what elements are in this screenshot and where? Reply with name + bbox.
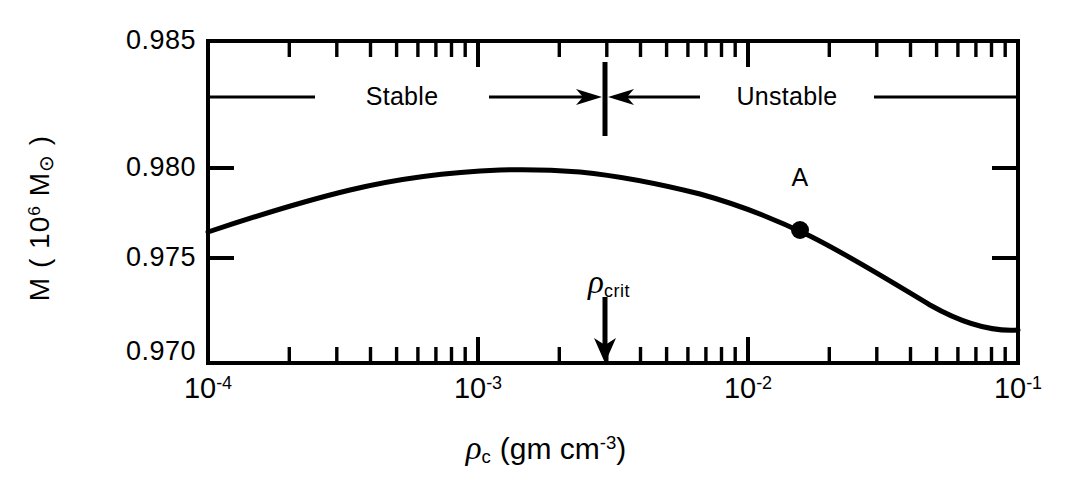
x-tick-exponent: -3 xyxy=(486,373,502,393)
x-tick-label-1e-2: 10-2 xyxy=(688,374,808,403)
stable-region-label: Stable xyxy=(315,84,489,109)
y-axis-title-close: ) xyxy=(24,135,55,154)
mass-curve xyxy=(208,170,1018,331)
y-axis-title: M ( 106 M⊙ ) xyxy=(24,78,64,358)
sun-symbol-icon: ⊙ xyxy=(35,154,57,172)
x-tick-label-1e-1: 10-1 xyxy=(958,374,1078,403)
x-axis-ticks-top xyxy=(289,41,1005,67)
rho-crit-label: ρcrit xyxy=(544,266,674,300)
x-axis-title-sub: c xyxy=(482,446,492,467)
rho-crit-arrow xyxy=(594,297,616,363)
x-axis-title-mid: (gm cm xyxy=(491,432,599,465)
x-tick-exponent: -1 xyxy=(1026,373,1042,393)
y-tick-label-0985: 0.985 xyxy=(76,27,196,54)
y-axis-title-exponent: 6 xyxy=(24,205,44,216)
unstable-region-label: Unstable xyxy=(700,84,874,109)
x-tick-exponent: -4 xyxy=(216,373,232,393)
x-tick-mantissa: 10 xyxy=(454,372,486,404)
x-tick-label-1e-3: 10-3 xyxy=(418,374,538,403)
x-tick-mantissa: 10 xyxy=(994,372,1026,404)
x-tick-mantissa: 10 xyxy=(184,372,216,404)
x-tick-mantissa: 10 xyxy=(724,372,756,404)
y-axis-title-prefix: M ( 10 xyxy=(24,216,55,301)
x-tick-label-1e-4: 10-4 xyxy=(148,374,268,403)
point-a-label: A xyxy=(775,165,825,190)
y-axis-title-suffix: M xyxy=(24,172,55,205)
y-tick-label-0975: 0.975 xyxy=(76,244,196,271)
x-axis-title: ρc (gm cm-3) xyxy=(0,432,1092,467)
x-axis-title-exp: -3 xyxy=(600,432,617,453)
rho-crit-subscript: crit xyxy=(604,281,630,301)
y-axis-ticks xyxy=(208,168,1018,258)
x-tick-exponent: -2 xyxy=(756,373,772,393)
y-tick-label-0970: 0.970 xyxy=(76,338,196,365)
y-tick-label-0980: 0.980 xyxy=(76,154,196,181)
figure-panel: 0.985 0.980 0.975 0.970 M ( 106 M⊙ ) 10-… xyxy=(0,0,1092,496)
rho-symbol-icon: ρ xyxy=(466,430,482,466)
rho-symbol-icon: ρ xyxy=(588,264,604,300)
x-axis-ticks-bottom xyxy=(289,337,1005,363)
x-axis-title-close: ) xyxy=(616,432,626,465)
point-a-marker xyxy=(791,221,809,239)
